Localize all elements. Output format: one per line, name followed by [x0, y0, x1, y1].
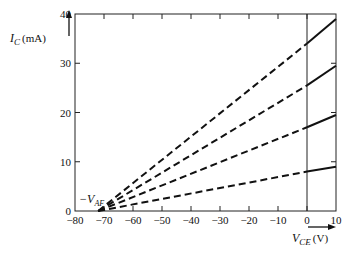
vaf-annotation: −VAF — [79, 192, 104, 208]
plot-frame — [75, 14, 336, 211]
x-tick-label: 0 — [304, 214, 310, 226]
extrapolated-line — [98, 127, 307, 211]
extrapolated-line — [98, 44, 307, 211]
x-tick-label: −20 — [240, 214, 258, 226]
characteristic-line — [307, 19, 336, 44]
extrapolated-line — [98, 85, 307, 211]
x-tick-label: −70 — [95, 214, 113, 226]
y-tick-label: 20 — [60, 107, 72, 119]
x-tick-label: −50 — [153, 214, 171, 226]
y-axis-label: IC(mA) — [9, 31, 46, 47]
x-tick-label: 10 — [331, 214, 343, 226]
plot-border — [75, 14, 336, 211]
x-tick-label: −40 — [182, 214, 200, 226]
x-tick-label: −30 — [211, 214, 229, 226]
x-axis-label: VCE(V) — [292, 231, 328, 247]
axis-ticks: −80−70−60−50−40−30−20−10010010203040 — [60, 8, 342, 226]
characteristic-line — [307, 66, 336, 86]
y-tick-label: 30 — [60, 57, 72, 69]
x-tick-label: −60 — [124, 214, 142, 226]
x-tick-label: −10 — [269, 214, 287, 226]
y-tick-label: 0 — [66, 205, 72, 217]
characteristic-line — [307, 115, 336, 127]
chart-canvas: −80−70−60−50−40−30−20−10010010203040 IC(… — [0, 0, 349, 257]
y-tick-label: 10 — [60, 156, 72, 168]
characteristic-line — [307, 167, 336, 172]
data-lines — [98, 19, 336, 211]
